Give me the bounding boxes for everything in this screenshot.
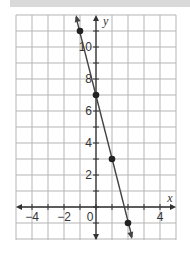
x-tick-label: −4 bbox=[25, 210, 39, 224]
y-tick-label: 2 bbox=[85, 168, 92, 182]
data-point bbox=[109, 156, 116, 163]
x-tick-label: 4 bbox=[157, 210, 164, 224]
y-axis-arrow-up-icon bbox=[93, 15, 99, 21]
y-axis-label: y bbox=[102, 14, 109, 28]
y-tick-label: 6 bbox=[85, 104, 92, 118]
data-point bbox=[93, 92, 100, 99]
x-axis-arrow-left-icon bbox=[16, 204, 22, 210]
x-tick-label: 0 bbox=[87, 210, 94, 224]
y-tick-label: 4 bbox=[85, 136, 92, 150]
coordinate-plane: −4−204246810xy bbox=[0, 0, 190, 255]
x-tick-label: −2 bbox=[57, 210, 71, 224]
x-axis-label: x bbox=[166, 191, 173, 205]
data-point bbox=[125, 220, 132, 227]
data-point bbox=[77, 28, 84, 35]
